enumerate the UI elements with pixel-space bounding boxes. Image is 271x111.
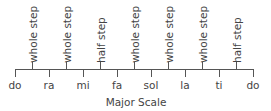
step-label: whole step [62, 6, 73, 63]
major-scale-diagram: do ra mi fa sol la ti do whole step whol… [0, 0, 271, 111]
step-label: whole step [198, 6, 209, 63]
step-label: whole step [28, 6, 39, 63]
note-label: do [246, 79, 259, 91]
note-tick [219, 69, 220, 77]
note-label: ti [215, 79, 222, 91]
note-tick [15, 69, 16, 77]
note-tick [253, 69, 254, 77]
note-label: ra [44, 79, 55, 91]
note-tick [49, 69, 50, 77]
step-tick [100, 62, 101, 70]
note-label: sol [144, 79, 159, 91]
step-tick [236, 62, 237, 70]
step-label: half step [232, 17, 243, 63]
step-tick [168, 62, 169, 70]
step-tick [134, 62, 135, 70]
note-label: la [180, 79, 189, 91]
note-label: fa [112, 79, 122, 91]
step-label: whole step [130, 6, 141, 63]
note-tick [83, 69, 84, 77]
step-label: whole step [164, 6, 175, 63]
step-label: half step [96, 17, 107, 63]
note-tick [117, 69, 118, 77]
step-tick [32, 62, 33, 70]
note-label: mi [76, 79, 89, 91]
step-tick [66, 62, 67, 70]
note-tick [151, 69, 152, 77]
note-label: do [8, 79, 21, 91]
note-tick [185, 69, 186, 77]
step-tick [202, 62, 203, 70]
diagram-caption: Major Scale [106, 96, 167, 108]
